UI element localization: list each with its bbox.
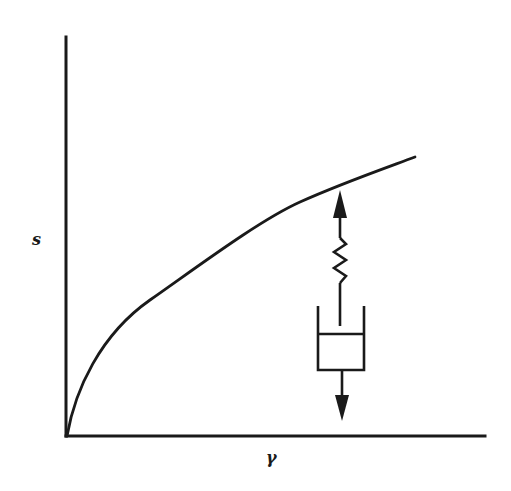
- diagram-canvas: [0, 0, 511, 491]
- y-axis-label: s: [32, 232, 41, 248]
- x-axis-label: γ: [266, 450, 277, 466]
- arrow-down-icon: [335, 395, 349, 421]
- maxwell-element: [318, 190, 364, 421]
- spring-icon: [334, 238, 346, 283]
- arrow-up-icon: [333, 190, 347, 218]
- stress-strain-curve: [67, 157, 415, 436]
